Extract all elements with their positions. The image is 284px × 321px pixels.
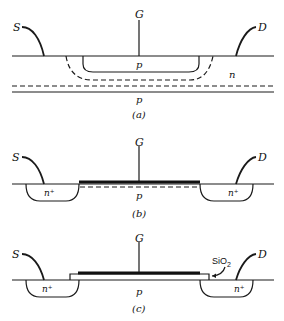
- source-n-plus-label: n⁺: [42, 284, 53, 294]
- caption-b: (b): [132, 208, 146, 219]
- source-lead: [22, 254, 44, 280]
- source-label: S: [12, 248, 20, 261]
- source-lead: [22, 157, 44, 184]
- oxide-layer: [70, 274, 209, 280]
- drain-lead: [236, 27, 256, 56]
- drain-n-plus-label: n⁺: [234, 284, 245, 294]
- caption-a: (a): [132, 109, 146, 120]
- gate-label: G: [135, 232, 144, 245]
- p-substrate-label: p: [136, 94, 143, 105]
- gate-label: G: [135, 136, 144, 149]
- source-label: S: [12, 151, 20, 164]
- drain-lead: [236, 254, 256, 280]
- drain-label: D: [257, 248, 267, 261]
- drain-lead: [236, 157, 256, 184]
- drain-label: D: [257, 21, 267, 34]
- panel-a: G S D p n p (a): [12, 8, 274, 120]
- caption-c: (c): [132, 303, 146, 314]
- gate-label: G: [135, 8, 144, 21]
- p-well-label: p: [136, 59, 143, 70]
- panel-c: G S D n⁺ n⁺ p SiO2 (c): [12, 232, 274, 314]
- sio2-label: SiO2: [212, 256, 231, 268]
- panel-b: G S D n⁺ n⁺ p (b): [12, 136, 274, 219]
- p-substrate-label: p: [136, 190, 143, 201]
- drain-diffusion: [200, 184, 253, 201]
- n-body-label: n: [229, 69, 235, 80]
- mosfet-structure-diagram: G S D p n p (a) G S D n⁺ n⁺ p: [0, 0, 284, 321]
- source-lead: [22, 27, 44, 56]
- sio2-pointer-arrow: [212, 267, 225, 276]
- arrowhead-icon: [212, 274, 216, 279]
- drain-diffusion: [200, 280, 253, 297]
- source-label: S: [13, 21, 21, 34]
- drain-label: D: [257, 151, 267, 164]
- drain-n-plus-label: n⁺: [228, 188, 239, 198]
- source-n-plus-label: n⁺: [44, 188, 55, 198]
- p-substrate-label: p: [136, 286, 143, 297]
